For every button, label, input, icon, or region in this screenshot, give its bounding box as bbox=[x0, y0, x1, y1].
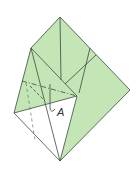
point-a-label: A bbox=[56, 106, 64, 118]
origami-diagram: A bbox=[0, 0, 137, 169]
colored-paper-regions bbox=[14, 17, 130, 161]
